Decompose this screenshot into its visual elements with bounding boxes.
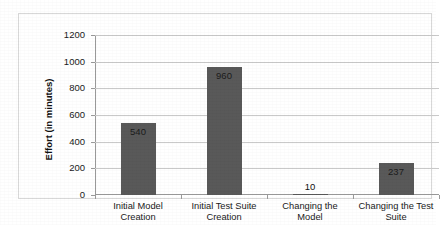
y-tick-mark <box>91 168 95 169</box>
y-tick-label: 400 <box>49 136 85 147</box>
y-tick-mark <box>91 88 95 89</box>
x-category-label: Initial Model Creation <box>95 201 181 223</box>
bar <box>207 67 242 195</box>
chart-frame: Effort (in minutes) 02004006008001000120… <box>18 13 432 199</box>
bar-value-label: 237 <box>366 166 426 177</box>
y-tick-mark <box>91 62 95 63</box>
y-tick-mark <box>91 142 95 143</box>
y-tick-label: 0 <box>49 189 85 200</box>
bar-value-label: 10 <box>280 181 340 192</box>
y-tick-mark <box>91 35 95 36</box>
bar-value-label: 960 <box>194 70 254 81</box>
bar-value-label: 540 <box>108 126 168 137</box>
gridline <box>95 62 439 63</box>
y-tick-mark <box>91 115 95 116</box>
y-tick-label: 600 <box>49 109 85 120</box>
gridline <box>95 115 439 116</box>
x-category-label: Changing the Test Suite <box>353 201 439 223</box>
x-category-label: Changing the Model <box>267 201 353 223</box>
x-tick-mark <box>95 195 96 199</box>
y-tick-label: 1000 <box>49 56 85 67</box>
gridline <box>95 35 439 36</box>
x-tick-mark <box>267 195 268 199</box>
y-tick-label: 200 <box>49 162 85 173</box>
x-tick-mark <box>353 195 354 199</box>
y-tick-label: 800 <box>49 82 85 93</box>
bar <box>293 194 328 196</box>
gridline <box>95 88 439 89</box>
y-tick-label: 1200 <box>49 29 85 40</box>
x-category-label: Initial Test Suite Creation <box>181 201 267 223</box>
x-tick-mark <box>181 195 182 199</box>
